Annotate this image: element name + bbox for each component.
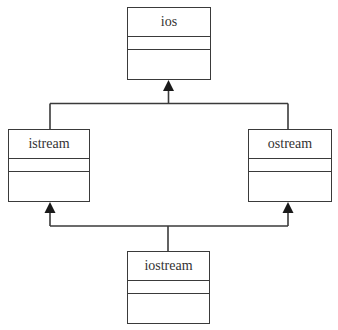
class-attributes-compartment [128, 281, 209, 294]
class-name: iostream [128, 252, 209, 281]
class-methods-compartment [9, 172, 89, 201]
class-box-istream[interactable]: istream [8, 129, 90, 202]
class-box-ostream[interactable]: ostream [248, 129, 332, 202]
uml-inheritance-diagram: ios istream ostream iostream [0, 0, 338, 330]
class-attributes-compartment [128, 37, 210, 50]
class-methods-compartment [128, 294, 209, 323]
class-attributes-compartment [249, 159, 331, 172]
class-box-ios[interactable]: ios [127, 7, 211, 80]
class-name: ios [128, 8, 210, 37]
arrowhead-ostream-icon [283, 202, 294, 213]
class-methods-compartment [249, 172, 331, 201]
generalization-to-ios [50, 90, 288, 129]
class-attributes-compartment [9, 159, 89, 172]
arrowhead-ios-icon [163, 80, 174, 91]
class-name: istream [9, 130, 89, 159]
class-name: ostream [249, 130, 331, 159]
arrowhead-istream-icon [45, 202, 56, 213]
class-box-iostream[interactable]: iostream [127, 251, 210, 324]
generalization-from-iostream [50, 212, 288, 251]
class-methods-compartment [128, 50, 210, 79]
